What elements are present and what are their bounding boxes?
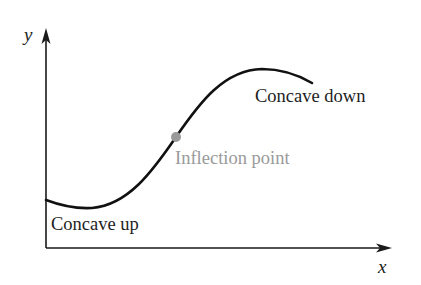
- x-axis-label: x: [377, 256, 387, 277]
- concave-down-label: Concave down: [255, 86, 365, 106]
- inflection-point-label: Inflection point: [175, 148, 290, 168]
- concave-up-label: Concave up: [51, 214, 139, 234]
- y-axis-label: y: [22, 24, 33, 45]
- concavity-diagram: y x Concave down Inflection point Concav…: [0, 0, 421, 285]
- inflection-point-marker: [171, 132, 181, 142]
